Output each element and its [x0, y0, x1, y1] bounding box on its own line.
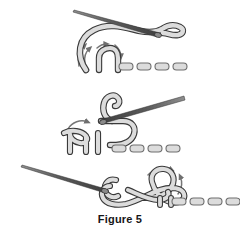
- stitch-mark: [190, 198, 204, 205]
- figure-illustration: [0, 0, 240, 236]
- stitch-mark: [173, 63, 187, 70]
- stitch-mark: [119, 63, 133, 70]
- stitch-mark: [155, 63, 169, 70]
- stitch-mark: [208, 198, 222, 205]
- figure-container: Figure 5: [0, 0, 240, 236]
- stitch-mark: [137, 63, 151, 70]
- stitch-mark: [166, 145, 180, 152]
- stitch-mark: [172, 198, 186, 205]
- stitch-mark: [130, 145, 144, 152]
- stitch-mark: [112, 145, 126, 152]
- stitch-mark: [148, 145, 162, 152]
- figure-caption: Figure 5: [0, 212, 240, 226]
- stitch-mark: [226, 198, 240, 205]
